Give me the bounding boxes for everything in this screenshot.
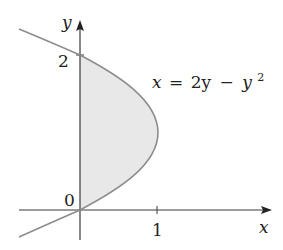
equation-minus: − [219, 72, 233, 92]
equation-exponent: 2 [257, 71, 264, 84]
y-tick-label-2: 2 [58, 51, 69, 71]
x-axis-label: x [259, 217, 269, 237]
origin-label: 0 [64, 190, 75, 210]
equation-term-y: y [241, 72, 252, 92]
equation-label: x = 2y − y 2 [152, 71, 264, 92]
equation-equals: = [169, 72, 183, 92]
x-tick-label-1: 1 [152, 220, 163, 240]
equation-lhs: x [152, 72, 162, 92]
y-axis-label: y [61, 12, 72, 32]
equation-term-2y: 2y [191, 72, 212, 92]
diagram-canvas: y x 2 0 1 x = 2y − y 2 [0, 0, 283, 250]
